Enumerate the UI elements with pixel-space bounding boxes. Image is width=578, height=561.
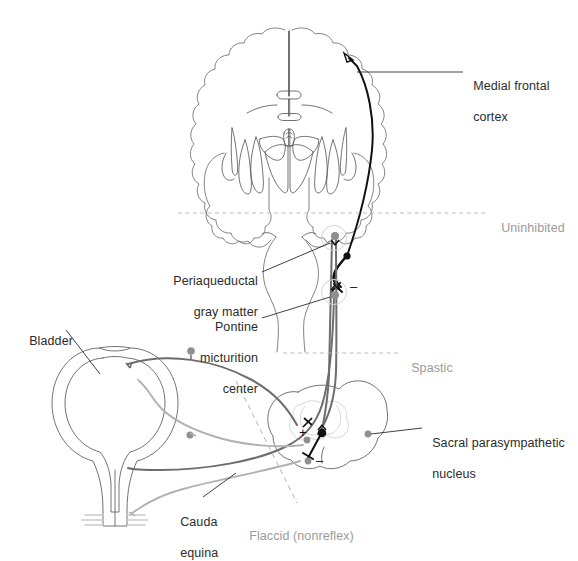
lesion-label-spastic-text: Spastic <box>411 361 453 375</box>
lesion-label-uninhibited-text: Uninhibited <box>501 221 565 235</box>
label-pontine-micturition-center-line2: micturition <box>200 351 258 365</box>
synapse-sign-pmc-inhibitory: – <box>350 279 357 294</box>
synapse-sign-cord-excitatory-text: + <box>299 425 307 440</box>
label-cauda-equina-line2: equina <box>180 546 218 560</box>
label-pontine-micturition-center-line1: Pontine <box>215 320 258 334</box>
synapse-sign-cord-inhibitory: – <box>316 453 323 468</box>
label-pontine-micturition-center: Pontine micturition center <box>118 304 258 397</box>
label-sacral-parasympathetic-nucleus-line1: Sacral parasympathetic <box>432 436 565 450</box>
label-cauda-equina-line1: Cauda <box>180 515 217 529</box>
synapse-sign-cord-excitatory: + <box>299 425 307 440</box>
leader-sacral-parasympathetic-nucleus <box>371 428 422 434</box>
brainstem <box>262 233 318 352</box>
label-sacral-parasympathetic-nucleus: Sacral parasympathetic nucleus <box>425 420 565 482</box>
synapse-sign-cord-inhibitory-text: – <box>316 453 323 468</box>
label-medial-frontal-cortex-line1: Medial frontal <box>473 79 549 93</box>
leader-pontine-micturition-center <box>262 297 330 318</box>
lesion-label-flaccid: Flaccid (nonreflex) <box>242 513 354 544</box>
label-sacral-parasympathetic-nucleus-line2: nucleus <box>432 467 476 481</box>
label-bladder-text: Bladder <box>29 334 73 348</box>
label-medial-frontal-cortex: Medial frontal cortex <box>466 63 550 125</box>
lesion-label-uninhibited: Uninhibited <box>494 205 565 236</box>
label-pontine-micturition-center-line3: center <box>223 382 258 396</box>
label-cauda-equina: Cauda equina <box>173 499 218 561</box>
label-bladder: Bladder <box>22 318 73 349</box>
cerebrum <box>190 28 386 247</box>
synapse-sign-pmc-inhibitory-text: – <box>350 279 357 294</box>
lesion-level-flaccid-line <box>236 381 297 503</box>
lesion-label-flaccid-text: Flaccid (nonreflex) <box>249 529 354 543</box>
leader-cauda-equina <box>203 473 236 497</box>
label-periaqueductal-gray-line1: Periaqueductal <box>173 274 258 288</box>
sacral-parasympathetic-nucleus-dot <box>365 431 372 438</box>
leader-periaqueductal-gray <box>262 243 330 272</box>
lesion-label-spastic: Spastic <box>404 345 453 376</box>
label-medial-frontal-cortex-line2: cortex <box>473 110 508 124</box>
